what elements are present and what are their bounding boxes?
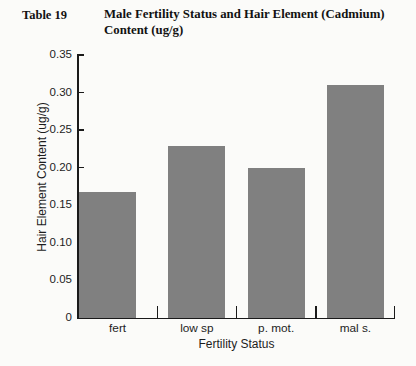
x-axis-tick-label: mal s. [310,321,400,335]
x-axis-end-tick [394,306,396,318]
y-axis-tick [77,129,84,130]
bar-chart: 00.050.100.150.200.250.300.35 fertlow sp… [0,0,416,366]
figure-page: Table 19 Male Fertility Status and Hair … [0,0,416,366]
x-axis-tick-label: fert [73,321,163,335]
x-axis-tick [236,306,238,318]
bar [248,168,305,318]
x-axis-tick [157,306,159,318]
x-axis-tick [315,306,317,318]
bar [79,192,136,318]
bar [327,85,384,318]
y-axis-label: Hair Element Content (ug/g) [35,62,49,292]
y-axis-tick-label: 0.35 [32,48,72,60]
y-axis-tick-label: 0 [32,311,72,323]
y-axis-tick-label-wrap: 0 [28,318,72,319]
y-axis-tick [77,92,84,93]
x-axis-label: Fertility Status [78,337,395,351]
y-axis-tick [77,54,84,55]
y-axis-tick [77,167,84,168]
x-axis-tick-label: p. mot. [231,321,321,335]
x-axis-tick-label: low sp [152,321,242,335]
y-axis-tick-label-wrap: 0.35 [28,55,72,56]
bar [168,146,225,318]
